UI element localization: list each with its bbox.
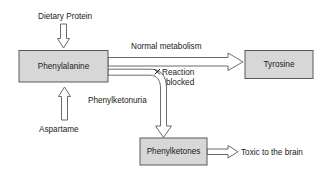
edge-label-reaction: Reaction xyxy=(162,68,195,77)
edge-label-normal-metabolism: Normal metabolism xyxy=(131,42,202,51)
input-label-dietary-protein: Dietary Protein xyxy=(38,12,93,21)
toxic-to-brain-arrow xyxy=(207,146,238,159)
node-label-phenylalanine: Phenylalanine xyxy=(38,62,90,71)
node-tyrosine[interactable]: Tyrosine xyxy=(245,51,313,79)
node-phenylalanine[interactable]: Phenylalanine xyxy=(19,51,108,83)
aspartame-arrow xyxy=(59,87,71,120)
node-phenylketones[interactable]: Phenylketones xyxy=(140,138,207,165)
dietary-protein-arrow xyxy=(58,24,70,48)
input-label-aspartame: Aspartame xyxy=(39,125,79,134)
edge-label-phenylketonuria: Phenylketonuria xyxy=(88,96,147,105)
node-label-phenylketones: Phenylketones xyxy=(147,147,201,156)
edge-label-toxic-to-the-brain: Toxic to the brain xyxy=(241,148,303,157)
node-label-tyrosine: Tyrosine xyxy=(264,60,295,69)
edge-label-blocked: blocked xyxy=(166,78,195,87)
diagram-canvas: Phenylalanine Tyrosine Phenylketones Die… xyxy=(0,0,320,180)
pathway-diagram: Phenylalanine Tyrosine Phenylketones Die… xyxy=(0,0,320,180)
